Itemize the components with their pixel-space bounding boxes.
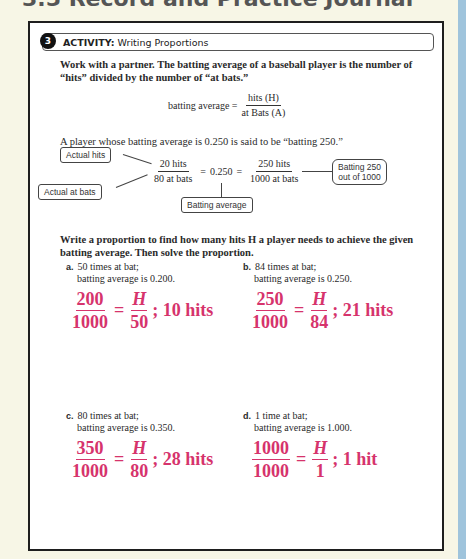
activity-label: ACTIVITY:	[63, 37, 115, 48]
answer-a: 2001000 = H50 ; 10 hits	[68, 289, 213, 332]
answer-den: 1	[316, 460, 325, 481]
answer-d: 10001000 = H1 ; 1 hit	[248, 438, 377, 481]
example-proportion: 20 hits 80 at bats = 0.250 = 250 hits 10…	[150, 158, 302, 185]
answer-fraction: 3501000	[72, 438, 108, 481]
arrow-icon	[123, 154, 152, 164]
activity-page: 3 ACTIVITY: Writing Proportions Work wit…	[28, 21, 444, 551]
answer-fraction: H80	[130, 438, 148, 481]
page-title: 3.5 Record and Practice Journal	[22, 0, 413, 11]
callout-batting-average: Batting average	[181, 197, 253, 213]
activity-header: 3 ACTIVITY: Writing Proportions	[42, 33, 434, 51]
answer-den: 1000	[252, 311, 288, 332]
formula-numerator: hits (H)	[246, 92, 281, 106]
problem-letter: a.	[66, 262, 74, 272]
answer-num: H	[312, 438, 328, 460]
answer-den: 1000	[72, 460, 108, 481]
arrow-icon	[302, 171, 332, 172]
arrow-icon	[221, 183, 222, 197]
example-hits: 20 hits	[158, 158, 189, 172]
example-scaled-at-bats: 1000 at bats	[250, 172, 298, 185]
problem-letter: d.	[243, 411, 251, 421]
answer-b: 2501000 = H84 ; 21 hits	[248, 289, 393, 332]
answer-fraction: 10001000	[252, 438, 290, 481]
answer-result: ; 21 hits	[332, 300, 393, 321]
answer-den: 50	[130, 311, 148, 332]
problem-letter: b.	[243, 262, 251, 272]
batting-average-formula: batting average = hits (H) at Bats (A)	[168, 92, 289, 119]
answer-den: 1000	[253, 460, 289, 481]
batting-250-sentence: A player whose batting average is 0.250 …	[60, 136, 343, 147]
arrow-icon	[116, 174, 148, 188]
answer-result: ; 28 hits	[152, 449, 213, 470]
callout-actual-hits: Actual hits	[60, 147, 111, 163]
problem-d: d.1 time at bat; batting average is 1.00…	[243, 410, 352, 434]
activity-title: ACTIVITY: Writing Proportions	[63, 37, 209, 48]
equals-sign: =	[114, 449, 124, 470]
formula-lhs: batting average =	[168, 100, 238, 111]
answer-num: H	[131, 438, 147, 460]
answer-result: ; 1 hit	[332, 449, 377, 470]
problem-line2: batting average is 1.000.	[243, 422, 352, 434]
problem-line2: batting average is 0.250.	[243, 273, 352, 285]
problem-line1: 50 times at bat;	[78, 261, 139, 272]
callout-batting-250-line1: Batting 250	[338, 162, 381, 172]
callout-batting-250-line2: out of 1000	[338, 172, 381, 182]
problem-b: b.84 times at bat; batting average is 0.…	[243, 261, 352, 285]
equals-sign: =	[294, 300, 304, 321]
problem-c: c.80 times at bat; batting average is 0.…	[66, 410, 175, 434]
intro-text: Work with a partner. The batting average…	[60, 58, 430, 84]
problem-line1: 80 times at bat;	[78, 410, 139, 421]
side-strip	[458, 0, 466, 559]
activity-number-badge: 3	[40, 33, 56, 49]
callout-batting-250: Batting 250 out of 1000	[332, 159, 387, 185]
answer-result: ; 10 hits	[152, 300, 213, 321]
problem-line1: 1 time at bat;	[255, 410, 308, 421]
formula-denominator: at Bats (A)	[242, 106, 286, 119]
problem-letter: c.	[66, 411, 74, 421]
problem-line2: batting average is 0.350.	[66, 422, 175, 434]
equals-sign: =	[200, 166, 206, 177]
example-at-bats: 80 at bats	[154, 172, 192, 185]
problem-line1: 84 times at bat;	[255, 261, 316, 272]
formula-fraction: hits (H) at Bats (A)	[242, 92, 286, 119]
answer-fraction: 2001000	[72, 289, 108, 332]
problem-line2: batting average is 0.200.	[66, 273, 175, 285]
example-decimal: 0.250	[210, 166, 233, 177]
example-scaled-hits: 250 hits	[256, 158, 292, 172]
equals-sign: =	[296, 449, 306, 470]
answer-den: 84	[310, 311, 328, 332]
answer-fraction: H1	[312, 438, 328, 481]
example-fraction-actual: 20 hits 80 at bats	[154, 158, 192, 185]
answer-num: H	[311, 289, 327, 311]
equals-sign: =	[236, 166, 242, 177]
answer-den: 80	[130, 460, 148, 481]
answer-den: 1000	[72, 311, 108, 332]
answer-num: 250	[256, 289, 285, 311]
answer-num: 350	[76, 438, 105, 460]
example-fraction-scaled: 250 hits 1000 at bats	[250, 158, 298, 185]
answer-fraction: H84	[310, 289, 328, 332]
problem-a: a.50 times at bat; batting average is 0.…	[66, 261, 175, 285]
answer-num: 1000	[252, 438, 290, 460]
instructions-text: Write a proportion to find how many hits…	[60, 233, 430, 259]
activity-name: Writing Proportions	[118, 37, 209, 48]
answer-num: H	[131, 289, 147, 311]
callout-actual-at-bats: Actual at bats	[38, 184, 102, 200]
answer-fraction: 2501000	[252, 289, 288, 332]
answer-fraction: H50	[130, 289, 148, 332]
answer-num: 200	[76, 289, 105, 311]
answer-c: 3501000 = H80 ; 28 hits	[68, 438, 213, 481]
equals-sign: =	[114, 300, 124, 321]
